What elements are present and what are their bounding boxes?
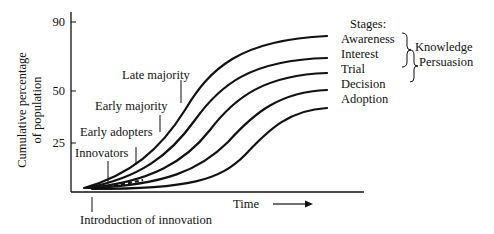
label-early-majority: Early majority <box>95 99 168 113</box>
y-tick-label-50: 50 <box>35 84 65 98</box>
brace-knowledge <box>402 33 411 67</box>
group-persuasion: Persuasion <box>419 55 473 69</box>
stage-decision: Decision <box>341 77 385 91</box>
y-axis-label-line2: of population <box>30 40 45 180</box>
stages-title: Stages: <box>350 17 386 31</box>
label-early-adopters: Early adopters <box>80 125 153 139</box>
group-knowledge: Knowledge <box>415 40 473 54</box>
right-arrow-icon <box>305 201 313 208</box>
label-late-majority: Late majority <box>122 68 190 82</box>
stage-awareness: Awareness <box>341 32 395 46</box>
y-tick-label-90: 90 <box>35 15 65 29</box>
brace-persuasion <box>410 50 418 82</box>
x-axis-label: Time <box>233 197 259 211</box>
stage-trial: Trial <box>341 62 365 76</box>
label-innovators: Innovators <box>75 146 128 160</box>
origin-label: Introduction of innovation <box>80 213 212 227</box>
y-tick-label-25: 25 <box>35 136 65 150</box>
stage-interest: Interest <box>341 47 378 61</box>
y-axis-label: Cumulative percentage of population <box>15 40 45 180</box>
stage-adoption: Adoption <box>341 92 388 106</box>
y-axis-label-line1: Cumulative percentage <box>15 40 30 180</box>
